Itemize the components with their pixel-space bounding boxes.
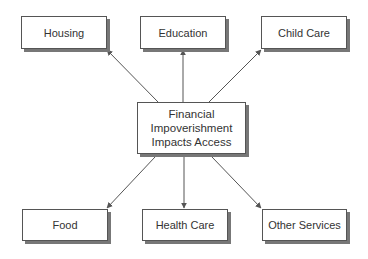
node-housing: Housing	[21, 16, 107, 49]
center-line-2: Impoverishment	[151, 121, 233, 135]
node-child-care: Child Care	[261, 16, 347, 49]
node-label: Food	[52, 218, 77, 232]
node-label: Education	[159, 26, 208, 40]
arrow-to-food	[107, 157, 155, 208]
arrow-to-childcare	[209, 50, 261, 102]
node-other-services: Other Services	[262, 209, 347, 241]
node-health-care: Health Care	[142, 209, 228, 241]
node-label: Housing	[44, 26, 84, 40]
center-node: Financial Impoverishment Impacts Access	[137, 102, 246, 154]
node-education: Education	[140, 16, 226, 49]
node-food: Food	[22, 209, 108, 241]
arrow-to-housing	[107, 50, 158, 102]
arrow-to-other	[212, 157, 261, 208]
center-line-1: Financial	[151, 107, 233, 121]
node-label: Other Services	[268, 218, 341, 232]
node-label: Child Care	[278, 26, 330, 40]
center-line-3: Impacts Access	[151, 135, 233, 149]
node-label: Health Care	[156, 218, 215, 232]
